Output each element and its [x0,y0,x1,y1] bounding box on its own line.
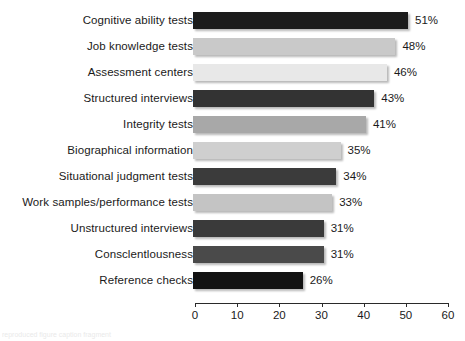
x-axis-tick-label: 40 [357,309,370,322]
x-axis-tick [322,303,323,307]
bar-track: 51% [193,12,465,29]
bar [193,64,387,81]
bar-value-label: 26% [310,272,333,289]
bar-rows-container: Cognitive ability tests51%Job knowledge … [0,8,465,294]
bar-value-label: 34% [343,168,366,185]
bar-category-label: Reference checks [99,268,193,294]
bar-value-label: 33% [339,194,362,211]
bar-track: 48% [193,38,465,55]
bar-row: Cognitive ability tests51% [0,8,465,34]
bar-track: 46% [193,64,465,81]
bar-chart: Cognitive ability tests51%Job knowledge … [0,0,465,341]
bar-value-label: 31% [331,220,354,237]
x-axis-tick [237,303,238,307]
bar-value-label: 31% [331,246,354,263]
x-axis-tick [448,303,449,307]
bar-value-label: 43% [381,90,404,107]
bar [193,168,336,185]
x-axis-tick-label: 60 [442,309,455,322]
x-axis-tick-label: 10 [231,309,244,322]
x-axis-tick [364,303,365,307]
bottom-caption-fragment: reproduced figure caption fragment [2,331,182,340]
bar-row: Integrity tests41% [0,112,465,138]
bar-category-label: Assessment centers [88,60,193,86]
bar-value-label: 48% [402,38,425,55]
bar-category-label: Consclentlousness [95,242,193,268]
bar-row: Reference checks26% [0,268,465,294]
bar [193,272,303,289]
x-axis-tick-label: 30 [315,309,328,322]
x-axis-tick [279,303,280,307]
bar-category-label: Job knowledge tests [87,34,193,60]
bar-value-label: 35% [348,142,371,159]
bar-value-label: 46% [394,64,417,81]
bar-row: Biographical information35% [0,138,465,164]
bar-row: Structured interviews43% [0,86,465,112]
bar-row: Job knowledge tests48% [0,34,465,60]
bar-track: 34% [193,168,465,185]
x-axis-tick [406,303,407,307]
bar-row: Consclentlousness31% [0,242,465,268]
bar [193,90,374,107]
bar-track: 35% [193,142,465,159]
bar [193,220,324,237]
bar-track: 31% [193,220,465,237]
bar-row: Work samples/performance tests33% [0,190,465,216]
bar-row: Assessment centers46% [0,60,465,86]
bar [193,38,395,55]
bar-category-label: Cognitive ability tests [83,8,193,34]
bar-value-label: 51% [415,12,438,29]
bar-category-label: Integrity tests [123,112,193,138]
bar [193,12,408,29]
bar-row: Unstructured interviews31% [0,216,465,242]
bar-row: Situational judgment tests34% [0,164,465,190]
bar-value-label: 41% [373,116,396,133]
x-axis-tick [195,303,196,307]
bar-category-label: Unstructured interviews [71,216,193,242]
bar [193,142,341,159]
bar [193,246,324,263]
bar [193,116,366,133]
bar-category-label: Situational judgment tests [59,164,193,190]
bar-track: 26% [193,272,465,289]
bar-track: 31% [193,246,465,263]
bar-category-label: Work samples/performance tests [22,190,193,216]
bar-track: 33% [193,194,465,211]
bar-track: 41% [193,116,465,133]
x-axis-tick-label: 20 [273,309,286,322]
bar [193,194,332,211]
bar-track: 43% [193,90,465,107]
bar-category-label: Structured interviews [84,86,193,112]
bar-category-label: Biographical information [67,138,193,164]
x-axis-tick-label: 50 [399,309,412,322]
x-axis-tick-label: 0 [192,309,198,322]
